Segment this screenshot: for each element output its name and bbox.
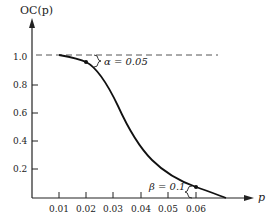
- y-tick-labels: 0.2 0.4 0.6 0.8 1.0: [13, 52, 28, 174]
- marked-point-beta: [194, 185, 198, 189]
- y-axis-arrow-icon: [29, 18, 35, 28]
- svg-text:1.0: 1.0: [13, 52, 28, 62]
- x-tick-labels: 0.01 0.02 0.03 0.04 0.05 0.06: [49, 204, 206, 214]
- x-axis-arrow-icon: [244, 195, 254, 201]
- svg-text:0.8: 0.8: [13, 80, 28, 90]
- beta-brace-icon: [185, 186, 192, 198]
- svg-text:0.04: 0.04: [131, 204, 151, 214]
- svg-text:0.6: 0.6: [13, 108, 28, 118]
- svg-text:0.03: 0.03: [103, 204, 123, 214]
- svg-text:0.01: 0.01: [49, 204, 69, 214]
- svg-text:0.05: 0.05: [158, 204, 178, 214]
- marked-point-alpha: [84, 60, 88, 64]
- oc-curve-chart: OC(p) p 0.2 0.4 0.6 0.8 1.0 0.01 0.02 0.…: [0, 0, 273, 223]
- svg-text:0.06: 0.06: [186, 204, 206, 214]
- alpha-annotation: α = 0.05: [104, 56, 148, 67]
- beta-annotation: β = 0.1: [148, 181, 185, 192]
- svg-text:0.02: 0.02: [76, 204, 96, 214]
- y-axis-title: OC(p): [20, 4, 53, 17]
- oc-curve: [59, 55, 226, 198]
- x-axis-title: p: [258, 191, 265, 204]
- y-ticks: [32, 85, 38, 169]
- svg-text:0.4: 0.4: [13, 136, 28, 146]
- alpha-brace-icon: [94, 55, 101, 67]
- x-ticks: [59, 192, 196, 198]
- svg-text:0.2: 0.2: [13, 164, 27, 174]
